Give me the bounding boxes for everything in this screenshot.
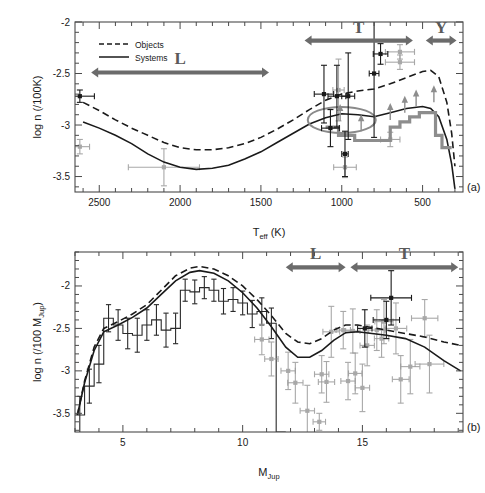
band-arrow-L-head-end [339,262,346,272]
two-panel-figure: 5001000150020002500-3.5-3-2.5-2LTYTeff (… [0,0,485,493]
band-arrow-T-head-start [350,262,357,272]
band-arrow-T-head-end [406,36,413,46]
panel-b: 51015-3.5-3-2.5-2LTMJuplog n (/100 MJup)… [31,244,480,481]
x-tick-label: 15 [357,437,369,448]
data-point-gray [401,339,420,393]
x-axis-title: Teff (K) [253,226,286,241]
y-tick-label: -3 [61,120,70,131]
x-tick-label: 2500 [88,197,111,208]
upper-limit-arrowhead [402,96,408,103]
plot-area [65,10,455,189]
x-tick-label: 1000 [331,197,354,208]
data-point-gray [385,303,407,354]
band-arrow-L-head-start [286,262,293,272]
data-point-gray [70,139,89,153]
y-tick-label: -2 [61,280,70,291]
data-point-gray [313,413,325,430]
y-tick-label: -3 [61,365,70,376]
data-point-gray [385,55,414,69]
band-arrow-L-label: L [174,49,185,68]
x-tick-label: 2000 [169,197,192,208]
upper-limit-arrowhead [387,103,393,110]
band-arrow-T-head-end [451,262,458,272]
band-arrow-Y-head-end [450,36,457,46]
data-point-gray [336,311,350,348]
band-arrow-T-label: T [399,244,411,263]
data-point-gray [288,362,303,403]
data-point-gray [300,385,314,436]
legend-label-objects: Objects [135,40,164,50]
data-point-black [342,53,355,140]
band-arrow-L-head-start [91,67,98,77]
y-tick-label: -3.5 [53,171,71,182]
figure-container: 5001000150020002500-3.5-3-2.5-2LTYTeff (… [0,0,485,493]
histogram-outline [75,288,286,432]
data-point-gray [333,59,344,121]
band-arrow-L-head-end [262,67,269,77]
data-point-gray [318,362,334,403]
data-point-black [65,90,94,102]
data-point-black [369,10,379,138]
x-tick-label: 10 [237,437,249,448]
x-tick-label: 5 [120,437,126,448]
series-systems [83,106,455,188]
y-tick-label: -3.5 [53,408,71,419]
y-axis-title: log n (/100 MJup) [31,302,46,382]
y-tick-label: -2.5 [53,68,71,79]
data-point-black [358,310,372,347]
band-arrow-Y-label: Y [435,18,447,37]
data-point-gray [255,324,269,355]
panel-tag: (a) [467,181,480,193]
data-point-gray [415,335,444,393]
x-tick-label: 1500 [250,197,273,208]
data-point-gray [412,300,438,337]
band-arrow-T-label: T [353,18,365,37]
plot-area [75,266,461,436]
data-point-gray [392,356,409,404]
band-arrow-L-label: L [310,244,321,263]
y-tick-label: -2 [61,17,70,28]
y-axis-title: log n (/100K) [31,76,43,139]
x-axis-title: MJup [258,466,279,481]
panel-a: 5001000150020002500-3.5-3-2.5-2LTYTeff (… [31,10,480,241]
data-point-gray [323,306,340,357]
series-objects [83,70,455,166]
data-point-gray [375,300,393,344]
upper-limit-arrowhead [413,89,419,96]
band-arrow-T-head-start [305,36,312,46]
upper-limit-arrowhead [431,85,437,92]
x-tick-label: 500 [414,197,431,208]
band-arrow-Y-head-start [426,36,433,46]
data-point-gray [355,364,369,412]
data-point-black [342,131,348,176]
series-systems [77,271,460,415]
panel-tag: (b) [467,421,480,433]
legend-label-systems: Systems [135,53,168,63]
y-tick-label: -2.5 [53,323,71,334]
data-point-gray [128,149,199,186]
